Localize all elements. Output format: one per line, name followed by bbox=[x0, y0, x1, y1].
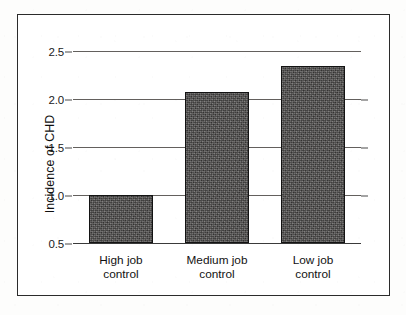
x-tick-label: Low jobcontrol bbox=[293, 254, 334, 281]
plot-area: 2.52.01.51.00.5High jobcontrolMedium job… bbox=[73, 51, 361, 243]
y-tick-mark bbox=[65, 148, 72, 149]
y-tick-label: 1.5 bbox=[49, 142, 64, 154]
bar bbox=[185, 92, 249, 243]
y-tick-mark bbox=[65, 100, 72, 101]
y-tick-mark bbox=[65, 52, 72, 53]
y-tick-label: 0.5 bbox=[49, 238, 64, 250]
x-tick-label-line: control bbox=[293, 268, 334, 282]
x-tick-label: Medium jobcontrol bbox=[187, 254, 248, 281]
figure-frame: Incidence of CHD 2.52.01.51.00.5High job… bbox=[17, 14, 390, 296]
x-tick-label-line: control bbox=[187, 268, 248, 282]
gridline: 2.5 bbox=[73, 51, 361, 52]
x-tick-label-line: control bbox=[99, 268, 142, 282]
x-tick-label: High jobcontrol bbox=[99, 254, 142, 281]
y-tick-label: 2.0 bbox=[49, 94, 64, 106]
bar bbox=[281, 66, 345, 243]
x-tick-label-line: High job bbox=[99, 254, 142, 268]
y-tick-mark-right bbox=[361, 100, 368, 101]
x-axis-line: 0.5 bbox=[73, 243, 361, 244]
y-tick-mark bbox=[65, 196, 72, 197]
y-tick-mark-right bbox=[361, 148, 368, 149]
bar bbox=[89, 195, 153, 243]
x-tick-label-line: Medium job bbox=[187, 254, 248, 268]
y-tick-mark-right bbox=[361, 196, 368, 197]
y-tick-label: 2.5 bbox=[49, 46, 64, 58]
y-tick-mark bbox=[65, 244, 72, 245]
scanned-page-background: Incidence of CHD 2.52.01.51.00.5High job… bbox=[0, 0, 406, 315]
y-tick-label: 1.0 bbox=[49, 190, 64, 202]
x-tick-label-line: Low job bbox=[293, 254, 334, 268]
